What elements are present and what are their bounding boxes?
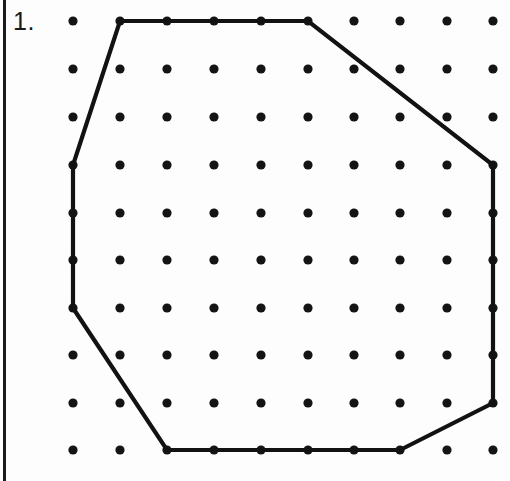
grid-dot: [349, 398, 358, 407]
grid-dot: [68, 445, 77, 454]
grid-dot: [349, 16, 358, 25]
grid-dot: [303, 303, 312, 312]
grid-dot: [256, 64, 265, 73]
grid-dot: [256, 255, 265, 264]
grid-dot: [395, 64, 404, 73]
grid-dot: [68, 16, 77, 25]
grid-dot: [209, 64, 218, 73]
grid-dot: [162, 208, 171, 217]
grid-dot: [256, 303, 265, 312]
grid-dot: [115, 398, 124, 407]
grid-dot: [395, 303, 404, 312]
grid-dot: [256, 350, 265, 359]
grid-dot: [395, 350, 404, 359]
grid-dot: [256, 398, 265, 407]
grid-dot: [209, 112, 218, 121]
dot-grid-figure: [0, 0, 510, 481]
grid-dot: [488, 445, 497, 454]
grid-dot: [442, 64, 451, 73]
grid-dot: [303, 160, 312, 169]
grid-dot: [442, 16, 451, 25]
grid-dot: [442, 303, 451, 312]
grid-dot: [115, 64, 124, 73]
grid-dot: [209, 303, 218, 312]
grid-dot: [395, 398, 404, 407]
grid-dot: [303, 64, 312, 73]
grid-dot: [115, 445, 124, 454]
grid-dot: [68, 112, 77, 121]
grid-dot: [162, 64, 171, 73]
grid-dot: [209, 398, 218, 407]
grid-dot: [115, 208, 124, 217]
grid-dot: [162, 160, 171, 169]
grid-dot: [115, 112, 124, 121]
grid-dot: [349, 350, 358, 359]
grid-dot: [395, 112, 404, 121]
grid-dot: [488, 112, 497, 121]
grid-dot: [256, 112, 265, 121]
grid-dot: [442, 350, 451, 359]
polygon-shape-layer: [73, 21, 493, 450]
grid-dot: [349, 208, 358, 217]
grid-dot: [395, 208, 404, 217]
grid-dot: [162, 112, 171, 121]
grid-dot: [162, 255, 171, 264]
grid-dot: [209, 350, 218, 359]
grid-dot: [349, 64, 358, 73]
grid-dot: [162, 303, 171, 312]
grid-dot: [488, 16, 497, 25]
grid-dot: [303, 255, 312, 264]
grid-dot: [209, 208, 218, 217]
grid-dot: [442, 112, 451, 121]
grid-dot: [349, 112, 358, 121]
grid-dot: [303, 350, 312, 359]
grid-dot: [303, 208, 312, 217]
grid-dot: [303, 112, 312, 121]
grid-dot: [115, 350, 124, 359]
grid-dot: [442, 160, 451, 169]
grid-dot: [115, 255, 124, 264]
grid-dot: [349, 255, 358, 264]
dot-grid-layer: [68, 16, 497, 454]
octagon-outline: [73, 21, 493, 450]
grid-dot: [442, 445, 451, 454]
grid-dot: [209, 160, 218, 169]
grid-dot: [162, 398, 171, 407]
grid-dot: [115, 160, 124, 169]
grid-dot: [256, 208, 265, 217]
grid-dot: [115, 303, 124, 312]
worksheet-figure-page: 1.: [0, 0, 510, 481]
grid-dot: [68, 64, 77, 73]
grid-dot: [349, 303, 358, 312]
grid-dot: [68, 350, 77, 359]
grid-dot: [395, 255, 404, 264]
grid-dot: [209, 255, 218, 264]
grid-dot: [488, 64, 497, 73]
grid-dot: [395, 160, 404, 169]
grid-dot: [442, 255, 451, 264]
grid-dot: [303, 398, 312, 407]
grid-dot: [68, 398, 77, 407]
grid-dot: [442, 208, 451, 217]
grid-dot: [395, 16, 404, 25]
grid-dot: [256, 160, 265, 169]
grid-dot: [442, 398, 451, 407]
grid-dot: [349, 160, 358, 169]
grid-dot: [162, 350, 171, 359]
